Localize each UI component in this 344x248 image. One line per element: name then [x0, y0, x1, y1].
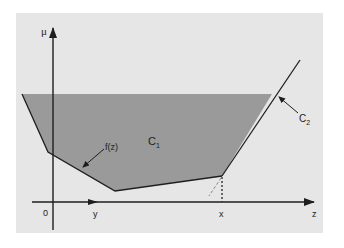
z-axis-label: z — [312, 209, 317, 219]
y-tick-label: y — [93, 209, 98, 219]
convex-set-diagram: μ C1 f(z) C2 0 y x z — [0, 0, 344, 248]
mu-axis-label: μ — [41, 25, 47, 37]
region-c1-subscript: 1 — [156, 142, 160, 149]
region-c1-letter: C — [148, 135, 156, 147]
fz-label: f(z) — [105, 142, 118, 152]
c2-subscript: 2 — [306, 119, 310, 126]
origin-label: 0 — [43, 208, 48, 218]
c2-letter: C — [299, 113, 306, 124]
x-tick-label: x — [219, 209, 224, 219]
